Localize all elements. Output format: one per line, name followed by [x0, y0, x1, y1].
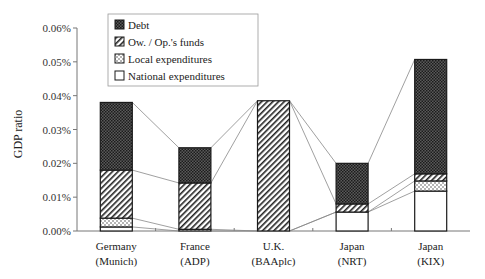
y-tick-label: 0.01% [43, 191, 71, 203]
bar-segment-dotted [415, 181, 447, 191]
bar-segment-hatched [336, 204, 368, 212]
category-label: Japan [418, 240, 444, 252]
legend-swatch-dark [115, 20, 124, 29]
category-label: (Munich) [96, 255, 138, 268]
bar-segment-white [415, 191, 447, 231]
bar-segment-hatched [100, 170, 132, 218]
y-tick-label: 0.02% [43, 157, 71, 169]
category-label: Japan [340, 240, 366, 252]
y-tick-label: 0.06% [43, 22, 71, 34]
y-tick-label: 0.05% [43, 56, 71, 68]
y-tick-label: 0.00% [43, 225, 71, 237]
bar-segment-hatched [258, 101, 290, 231]
bar-segment-dark [415, 59, 447, 173]
bar-germany-munich [100, 102, 132, 231]
y-axis-label: GDP ratio [11, 110, 25, 159]
legend-label: Ow. / Op.'s funds [128, 36, 204, 48]
legend-label: National expenditures [128, 70, 225, 82]
bar-segment-dark [100, 102, 132, 170]
legend-label: Local expenditures [128, 53, 212, 65]
bar-segment-dark [179, 148, 211, 183]
category-labels: Germany(Munich)France(ADP)U.K.(BAAplc)Ja… [96, 240, 445, 268]
bar-segment-white [336, 212, 368, 231]
bar-segment-hatched [179, 183, 211, 229]
legend-swatch-hatched [115, 37, 124, 46]
bar-france-adp [179, 148, 211, 231]
legend: DebtOw. / Op.'s fundsLocal expendituresN… [108, 14, 258, 86]
bar-segment-dotted [100, 218, 132, 227]
y-axis: 0.00%0.01%0.02%0.03%0.04%0.05%0.06% [43, 22, 77, 237]
category-label: France [180, 240, 210, 252]
bar-segment-dark [336, 163, 368, 204]
bar-u-k-baaplc [258, 101, 290, 231]
bar-japan-kix [415, 59, 447, 231]
category-label: (BAAplc) [252, 255, 296, 268]
category-label: (NRT) [338, 255, 367, 268]
category-label: Germany [96, 240, 137, 252]
legend-label: Debt [128, 19, 149, 31]
stacked-bar-chart: 0.00%0.01%0.02%0.03%0.04%0.05%0.06% Germ… [0, 0, 485, 279]
bar-segment-white [100, 227, 132, 231]
legend-swatch-white [115, 71, 124, 80]
category-label: (KIX) [417, 255, 444, 268]
bar-japan-nrt [336, 163, 368, 231]
bar-segment-hatched [415, 174, 447, 181]
category-label: U.K. [263, 240, 285, 252]
y-tick-label: 0.04% [43, 90, 71, 102]
category-label: (ADP) [180, 255, 210, 268]
y-tick-label: 0.03% [43, 124, 71, 136]
legend-swatch-dotted [115, 54, 124, 63]
